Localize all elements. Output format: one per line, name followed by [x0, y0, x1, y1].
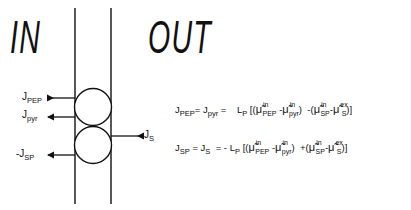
flux-label-pep: JPEP: [22, 92, 42, 105]
eq2-term-mu-pep: μ̃inPEP: [248, 142, 269, 153]
eq1-term-mu-pyr: μ̃inpyr: [282, 104, 299, 115]
eq2-close1: ): [292, 142, 295, 153]
eq2-term-mu-s: μ̃exS: [328, 142, 341, 153]
eq2-equals1: =: [192, 142, 198, 153]
flux-pyr-subscript: pyr: [27, 114, 37, 123]
flux-label-sp: -JSP: [16, 149, 34, 162]
pyr-arrow-head-icon: [47, 114, 54, 121]
eq1-term-mu-s: μ̃exS: [333, 104, 346, 115]
eq1-equals2: =: [221, 104, 227, 115]
eq1-lhs2-sub: pyr: [208, 109, 218, 118]
eq1-lhs1-sub: PEP: [180, 109, 195, 118]
eq2-equals2: =: [216, 142, 222, 153]
eq2-term-mu-sp: μ̃inSP: [309, 142, 325, 153]
eq2-coef-sub: P: [235, 147, 240, 156]
eq1-term-mu-sp: μ̃inSP: [314, 104, 330, 115]
equation-sp-s: JSP = JS = - LP [(μ̃inPEP -μ̃inpyr) +(μ̃…: [175, 142, 347, 156]
pep-arrow-head-icon: [47, 95, 54, 102]
flux-sp-subscript: SP: [24, 153, 34, 162]
flux-s-subscript: S: [149, 134, 154, 143]
eq2-lhs1-sub: SP: [180, 147, 190, 156]
sp-arrow-head-icon: [47, 152, 54, 159]
eq1-close1: ): [299, 104, 302, 115]
flux-pep-subscript: PEP: [27, 96, 42, 105]
s-arrow-head-icon: [137, 133, 144, 140]
eq2-coef-sign: -: [224, 142, 227, 153]
eq1-equals1: =: [195, 104, 201, 115]
eq1-coef-sub: P: [242, 109, 247, 118]
transporter-circle-bottom: [75, 127, 112, 164]
transporter-circle-top: [75, 89, 112, 126]
eq2-term-mu-pyr: μ̃inpyr: [275, 142, 292, 153]
eq1-term-mu-pep: μ̃inPEP: [256, 104, 277, 115]
flux-label-s: JS: [144, 130, 154, 143]
equation-pep-pyr: JPEP= Jpyr = LP [(μ̃inPEP -μ̃inpyr) -(μ̃…: [175, 104, 352, 118]
outside-region-label: OUT: [148, 14, 212, 60]
flux-label-pyr: Jpyr: [22, 110, 37, 123]
eq2-lhs2-sub: S: [205, 147, 210, 156]
inside-region-label: IN: [10, 14, 41, 60]
